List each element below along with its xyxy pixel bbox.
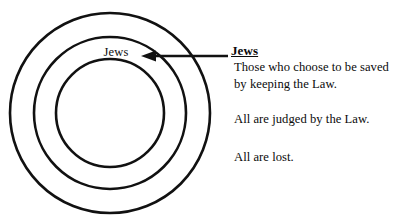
callout-paragraph-1: Those who choose to be saved by keeping …: [231, 59, 403, 92]
inner-circle-label: Jews: [76, 44, 156, 60]
callout-paragraph-2: All are judged by the Law.: [231, 111, 403, 128]
outer-ring: [10, 13, 210, 213]
callout-heading: Jews: [231, 42, 258, 59]
inner-ring: [56, 59, 164, 167]
diagram-page: Jews Jews Those who choose to be saved b…: [0, 0, 407, 223]
callout-block: Jews Those who choose to be saved by kee…: [231, 41, 403, 165]
callout-paragraph-3: All are lost.: [231, 149, 403, 166]
callout-heading-wrap: Jews: [231, 41, 403, 59]
